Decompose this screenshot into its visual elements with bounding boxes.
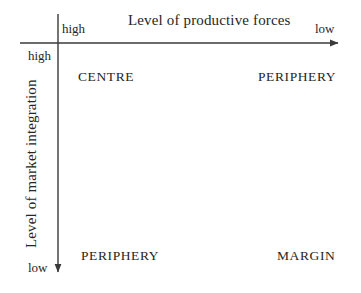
horizontal-scale-high-label: high [62,22,85,35]
quadrant-label-top-left: CENTRE [78,70,134,84]
quadrant-label-bottom-left: PERIPHERY [81,249,159,263]
quadrant-label-top-right: PERIPHERY [258,70,336,84]
horizontal-scale-low-label: low [315,22,335,35]
vertical-axis-title: Level of market integration [24,79,39,248]
horizontal-axis-title: Level of productive forces [128,13,291,28]
quadrant-diagram: Level of productive forces Level of mark… [0,0,361,293]
vertical-scale-low-label: low [28,261,48,274]
vertical-scale-high-label: high [28,49,51,62]
quadrant-label-bottom-right: MARGIN [277,249,335,263]
